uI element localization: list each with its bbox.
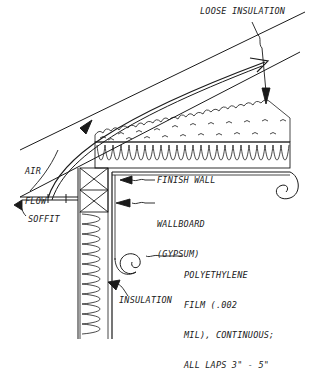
- label-finish-wall: FINISH WALL: [157, 175, 216, 185]
- label-polyethylene-line1: POLYETHYLENE: [184, 270, 274, 280]
- vapor-film-swirl-ceiling: [276, 172, 298, 199]
- top-plate: [80, 168, 108, 212]
- roof-line-upper: [20, 12, 305, 150]
- wall-batt-waves: [82, 214, 100, 334]
- label-polyethylene-line4: ALL LAPS 3" - 5": [184, 360, 274, 370]
- vapor-film-swirl-wall: [120, 254, 140, 274]
- ceiling-batt-insulation: [95, 142, 290, 168]
- label-air-flow: AIR FLOW: [25, 146, 46, 216]
- label-polyethylene-line3: MIL), CONTINUOUS;: [184, 330, 274, 340]
- label-insulation: INSULATION: [119, 295, 172, 305]
- label-soffit: SOFFIT: [28, 214, 60, 224]
- label-air-flow-line2: FLOW: [25, 196, 46, 206]
- loose-insulation-layer: [95, 100, 290, 142]
- label-loose-insulation: LOOSE INSULATION: [200, 6, 285, 16]
- ceiling-batt-waves: [97, 145, 289, 160]
- label-air-flow-line1: AIR: [25, 166, 46, 176]
- label-wallboard-line1: WALLBOARD: [157, 219, 205, 229]
- label-polyethylene-film: POLYETHYLENE FILM (.002 MIL), CONTINUOUS…: [184, 250, 274, 372]
- label-polyethylene-line2: FILM (.002: [184, 300, 274, 310]
